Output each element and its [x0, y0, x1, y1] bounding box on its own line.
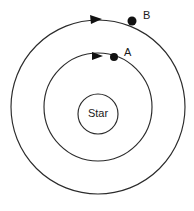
- orbit-diagram-canvas: Star B A: [0, 0, 194, 211]
- outer-orbit-direction-arrow-icon: [90, 15, 102, 24]
- body-b-label: B: [143, 9, 150, 21]
- body-b-dot: [128, 17, 137, 26]
- body-a-dot: [110, 53, 118, 61]
- orbit-diagram-svg: Star B A: [0, 0, 194, 211]
- star-label: Star: [88, 107, 109, 119]
- body-a-label: A: [124, 46, 132, 58]
